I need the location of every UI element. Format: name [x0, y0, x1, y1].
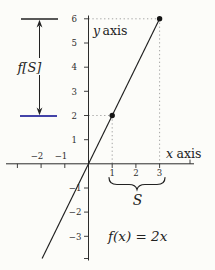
y-tick-6: 6 — [72, 14, 77, 24]
axis-labels: y axis x axis — [92, 23, 201, 161]
y-tick-neg2: −2 — [69, 207, 82, 217]
y-tick-1: 1 — [72, 135, 77, 145]
x-tick-neg2: −2 — [31, 151, 44, 161]
y-tick-2: 2 — [72, 111, 77, 121]
y-axis-label-var: y — [92, 23, 101, 38]
x-axis-label-var: x — [166, 146, 173, 161]
y-axis — [84, 16, 89, 261]
y-tick-labels: 6 5 4 3 2 1 −1 −2 −3 — [69, 14, 82, 242]
x-tick-2: 2 — [133, 168, 138, 178]
point-3-6 — [157, 16, 162, 21]
x-tick-neg1: −1 — [55, 151, 68, 161]
y-axis-label-word: axis — [103, 23, 128, 38]
image-interval-label: f[S] — [17, 60, 43, 75]
image-bracket: f[S] — [14, 19, 58, 116]
interval-brace — [109, 178, 165, 190]
y-tick-4: 4 — [72, 62, 78, 72]
x-axis-label-word: axis — [177, 146, 202, 161]
x-tick-3: 3 — [157, 168, 162, 178]
interval-label: S — [133, 192, 143, 208]
function-image-figure: 6 5 4 3 2 1 −1 −2 −3 −2 −1 1 2 3 f[S] y … — [0, 0, 215, 270]
graph-canvas: 6 5 4 3 2 1 −1 −2 −3 −2 −1 1 2 3 f[S] y … — [0, 0, 215, 270]
y-tick-5: 5 — [72, 38, 77, 48]
point-1-2 — [110, 113, 115, 118]
function-label: f(x) = 2x — [107, 228, 168, 244]
function-line — [42, 19, 160, 259]
y-tick-3: 3 — [72, 87, 77, 97]
y-tick-neg3: −3 — [69, 232, 82, 242]
x-tick-1: 1 — [109, 168, 114, 178]
x-axis — [6, 160, 194, 168]
